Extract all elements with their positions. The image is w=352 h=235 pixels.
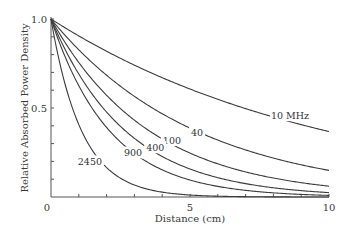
- x-axis-title: Distance (cm): [155, 213, 225, 224]
- x-tick-label: 5: [187, 202, 193, 213]
- curve-label: 900: [124, 147, 142, 158]
- y-axis-title: Relative Absorbed Power Density: [19, 23, 30, 193]
- x-tick-label: 10: [323, 202, 336, 213]
- curve-label: 40: [191, 127, 203, 138]
- x-tick-label: 0: [44, 202, 50, 213]
- chart: 05100.51.0 10 MHz401004009002450 Distanc…: [0, 0, 352, 235]
- curve-label: 10 MHz: [271, 110, 309, 121]
- y-tick-label: 1.0: [31, 14, 47, 25]
- curve-label: 2450: [78, 156, 102, 167]
- curve-2450: [51, 19, 329, 197]
- curve-label: 400: [146, 142, 164, 153]
- y-tick-label: 0.5: [31, 103, 47, 114]
- curves: [51, 19, 329, 197]
